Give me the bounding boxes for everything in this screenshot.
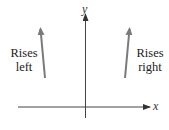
rises-right-arrow xyxy=(125,29,130,78)
rises-right-line2: right xyxy=(134,60,166,74)
rises-left-arrow xyxy=(41,29,46,78)
rises-left-label: Rises left xyxy=(8,46,40,74)
rises-left-line1: Rises xyxy=(8,46,40,60)
rises-left-line2: left xyxy=(8,60,40,74)
rises-right-label: Rises right xyxy=(134,46,166,74)
x-axis-label: x xyxy=(153,100,158,112)
rises-right-line1: Rises xyxy=(134,46,166,60)
y-axis-label: y xyxy=(82,3,87,15)
end-behavior-diagram: y x Rises left Rises right xyxy=(0,0,169,130)
